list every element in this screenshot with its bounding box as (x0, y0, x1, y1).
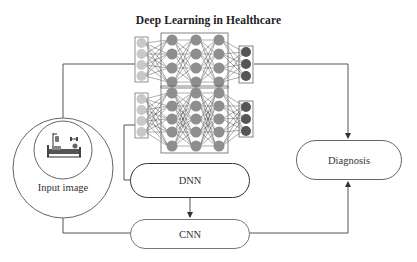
input-image-label: Input image (13, 182, 113, 193)
edge-input-to-cnn (63, 218, 131, 233)
cnn-label: CNN (179, 229, 201, 240)
dnn-node: DNN (130, 163, 250, 198)
dnn-label: DNN (179, 175, 202, 186)
diagnosis-node: Diagnosis (296, 140, 402, 180)
diagnosis-label: Diagnosis (328, 155, 370, 166)
edge-input-to-network-top (63, 64, 135, 118)
input-image-node (13, 118, 113, 218)
edge-network-top-to-diagnosis (254, 64, 348, 138)
cnn-node: CNN (130, 219, 250, 249)
edge-cnn-to-diagnosis (250, 182, 348, 233)
network-top (135, 33, 253, 88)
network-top-connections (145, 40, 244, 82)
network-bottom (135, 86, 253, 153)
